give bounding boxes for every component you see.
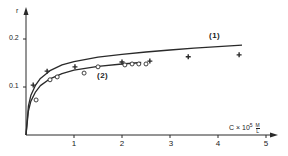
y-axis-label: r (16, 7, 18, 14)
plus-marker-icon (72, 64, 77, 69)
series-label-1: (1) (209, 31, 220, 40)
x-axis-label-exp: 5 (250, 122, 253, 128)
y-tick-0-1: 0.1 (9, 82, 19, 89)
circle-marker-icon (123, 63, 127, 67)
circle-marker-icon (144, 62, 148, 66)
y-axis-arrow-icon (24, 7, 29, 15)
circle-marker-icon (34, 98, 38, 102)
curve-1 (26, 45, 242, 135)
plus-marker-icon (45, 69, 50, 74)
y-tick-0-2: 0.2 (9, 34, 19, 41)
plus-marker-icon (186, 54, 191, 59)
x-axis-unit-den: L (256, 129, 260, 134)
circle-marker-icon (82, 71, 86, 75)
series-label-2: (2) (97, 71, 108, 80)
x-tick-1: 1 (72, 139, 76, 148)
x-axis-label: C × 105 M L (229, 122, 260, 134)
x-axis-arrow-icon (270, 133, 278, 138)
x-tick-4: 4 (216, 139, 220, 148)
circle-marker-icon (137, 62, 141, 66)
x-axis-unit: M L (256, 123, 260, 134)
circle-marker-icon (48, 78, 52, 82)
circle-marker-icon (130, 62, 134, 66)
circle-marker-icon (55, 75, 59, 79)
x-tick-2: 2 (120, 139, 124, 148)
plus-marker-icon (237, 52, 242, 57)
x-tick-5: 5 (264, 139, 268, 148)
x-tick-3: 3 (169, 139, 173, 148)
x-axis-label-base: C × 10 (229, 124, 250, 131)
circle-marker-icon (96, 65, 100, 69)
